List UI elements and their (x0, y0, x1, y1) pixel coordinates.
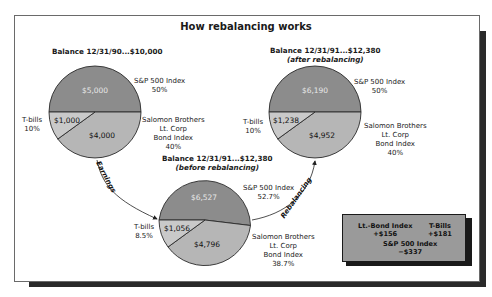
bond-name-line-1: Salomon Brothers (252, 233, 315, 242)
pie-after-tbills-label: T-bills 10% (243, 118, 263, 136)
pie-after-bond-label: Salomon Brothers Lt. Corp Bond Index 40% (364, 122, 427, 158)
pie-start-bond-value: $4,000 (89, 131, 115, 140)
pie-after-sp500-label: S&P 500 Index 50% (354, 78, 405, 96)
sp500-pct: 50% (134, 86, 185, 95)
pie-after-sp500-value: $6,190 (302, 86, 328, 95)
pie-start-bond-label: Salomon Brothers Lt. Corp Bond Index 40% (142, 116, 205, 152)
change-sp500: S&P 500 Index −$337 (383, 240, 437, 256)
bond-name-line-3: Bond Index (364, 140, 427, 149)
balance-sub-text: (before rebalancing) (162, 163, 273, 172)
pie-before-tbills-label: T-bills 8.5% (134, 223, 154, 241)
change-sp500-value: −$337 (383, 248, 437, 256)
tbills-pct: 8.5% (134, 232, 154, 241)
change-sp500-name: S&P 500 Index (383, 240, 437, 248)
bond-name-line-1: Salomon Brothers (142, 116, 205, 125)
bond-pct: 40% (142, 143, 205, 152)
balance-text: Balance 12/31/91...$12,380 (270, 46, 381, 55)
change-bond-name: Lt.-Bond Index (358, 222, 412, 230)
change-tbills-name: T-Bills (428, 222, 452, 230)
pie-before-bond-value: $4,796 (194, 240, 220, 249)
pie-start-tbills-value: $1,000 (54, 116, 80, 125)
balance-text: Balance 12/31/91...$12,380 (162, 154, 273, 163)
sp500-pct: 52.7% (243, 193, 294, 202)
pie-after-bond-value: $4,952 (309, 131, 335, 140)
sp500-name: S&P 500 Index (134, 77, 185, 86)
change-bond: Lt.-Bond Index +$156 (358, 222, 412, 238)
pie-after-tbills-value: $1,238 (273, 116, 299, 125)
change-bond-value: +$156 (358, 230, 412, 238)
sp500-pct: 50% (354, 87, 405, 96)
pie-before-sp500-slice (159, 181, 251, 226)
tbills-pct: 10% (243, 127, 263, 136)
bond-name-line-1: Salomon Brothers (364, 122, 427, 131)
pie-before-tbills-value: $1,056 (164, 224, 190, 233)
sp500-name: S&P 500 Index (354, 78, 405, 87)
tbills-name: T-bills (243, 118, 263, 127)
change-tbills: T-Bills +$181 (428, 222, 452, 238)
pie-after: $6,190 $4,952 $1,238 (269, 66, 361, 158)
pie-start-tbills-label: T-bills 10% (22, 116, 42, 134)
pie-after-balance-label: Balance 12/31/91...$12,380 (after rebala… (270, 46, 381, 64)
tbills-name: T-bills (134, 223, 154, 232)
change-tbills-value: +$181 (428, 230, 452, 238)
pie-before-bond-label: Salomon Brothers Lt. Corp Bond Index 38.… (252, 233, 315, 269)
balance-sub-text: (after rebalancing) (270, 55, 381, 64)
pie-before-sp500-label: S&P 500 Index 52.7% (243, 184, 294, 202)
bond-name-line-2: Lt. Corp (142, 125, 205, 134)
pie-before-balance-label: Balance 12/31/91...$12,380 (before rebal… (162, 154, 273, 172)
pie-start-sp500-label: S&P 500 Index 50% (134, 77, 185, 95)
pie-start-balance-label: Balance 12/31/90...$10,000 (52, 47, 163, 56)
tbills-pct: 10% (22, 125, 42, 134)
sp500-name: S&P 500 Index (243, 184, 294, 193)
bond-name-line-3: Bond Index (252, 251, 315, 260)
bond-name-line-2: Lt. Corp (252, 242, 315, 251)
bond-name-line-3: Bond Index (142, 134, 205, 143)
pie-start-sp500-value: $5,000 (82, 86, 108, 95)
pie-before-sp500-value: $6,527 (191, 193, 217, 202)
bond-pct: 38.7% (252, 260, 315, 269)
pie-start: $5,000 $4,000 $1,000 (49, 66, 141, 158)
bond-pct: 40% (364, 149, 427, 158)
bond-name-line-2: Lt. Corp (364, 131, 427, 140)
earnings-arrow-label: Earnings (94, 160, 117, 194)
tbills-name: T-bills (22, 116, 42, 125)
pie-before: $6,527 $4,796 $1,056 (159, 181, 251, 266)
